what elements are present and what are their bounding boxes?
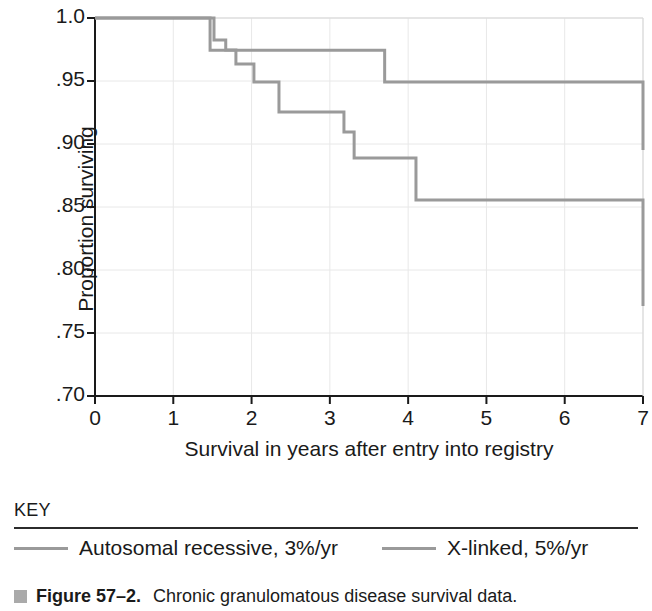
- key-label-x-linked: X-linked, 5%/yr: [447, 536, 588, 560]
- figure-number: Figure 57–2.: [36, 586, 141, 607]
- x-tick-label: 7: [628, 406, 652, 430]
- figure-caption-text: Chronic granulomatous disease survival d…: [153, 586, 517, 607]
- x-tick-label: 6: [550, 406, 580, 430]
- y-tick-label: .70: [27, 382, 85, 406]
- y-tick-label: .85: [27, 193, 85, 217]
- y-tick-label: .80: [27, 256, 85, 280]
- axis-ticks: [87, 18, 643, 404]
- x-tick-label: 5: [471, 406, 501, 430]
- key-title: KEY: [14, 500, 638, 521]
- x-tick-label: 4: [393, 406, 423, 430]
- series-line-autosomal-recessive: [95, 18, 643, 150]
- figure-root: Proportion surviving Survival in years a…: [0, 0, 652, 611]
- y-tick-label: .95: [27, 67, 85, 91]
- key-entry-x-linked: X-linked, 5%/yr: [382, 536, 588, 560]
- key-entries: Autosomal recessive, 3%/yr X-linked, 5%/…: [14, 536, 638, 560]
- key-block: KEY Autosomal recessive, 3%/yr X-linked,…: [14, 500, 638, 560]
- x-tick-label: 2: [237, 406, 267, 430]
- y-tick-label: .75: [27, 319, 85, 343]
- line-swatch-icon: [382, 547, 436, 550]
- key-divider: [14, 527, 638, 529]
- caption-marker-icon: [14, 590, 27, 603]
- y-tick-label: .90: [27, 130, 85, 154]
- series-layer: [95, 18, 643, 306]
- key-label-autosomal-recessive: Autosomal recessive, 3%/yr: [79, 536, 338, 560]
- gridlines: [95, 18, 643, 396]
- figure-caption: Figure 57–2. Chronic granulomatous disea…: [14, 586, 644, 607]
- x-tick-label: 0: [80, 406, 110, 430]
- x-tick-label: 1: [158, 406, 188, 430]
- line-swatch-icon: [14, 547, 68, 550]
- key-entry-autosomal-recessive: Autosomal recessive, 3%/yr: [14, 536, 338, 560]
- x-tick-label: 3: [315, 406, 345, 430]
- survival-chart: Proportion surviving Survival in years a…: [0, 0, 652, 470]
- x-axis-title: Survival in years after entry into regis…: [95, 437, 643, 461]
- y-tick-label: 1.0: [27, 4, 85, 28]
- series-line-x-linked: [95, 18, 643, 306]
